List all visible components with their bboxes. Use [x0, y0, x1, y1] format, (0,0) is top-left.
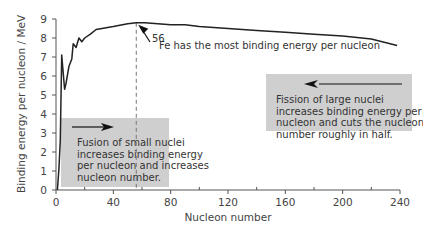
x-axis-title: Nucleon number: [184, 211, 272, 223]
y-tick-label: 5: [40, 89, 47, 101]
fission-text-line: number roughly in half.: [276, 129, 393, 140]
fission-text-line: increases binding energy per: [276, 106, 423, 117]
x-tick-label: 0: [53, 196, 60, 208]
y-tick-label: 4: [40, 108, 47, 120]
y-tick-label: 3: [40, 127, 47, 139]
binding-energy-chart: Fusion of small nucleiincreases binding …: [0, 0, 423, 230]
y-tick-label: 7: [40, 51, 47, 63]
x-tick-label: 160: [275, 196, 295, 208]
fusion-text-line: per nucleon and increases: [77, 160, 209, 171]
fusion-text-line: increases binding energy: [77, 149, 203, 160]
fe-annotation-text: Fe has the most binding energy per nucle…: [159, 40, 380, 51]
y-tick-label: 8: [40, 32, 47, 44]
fe-arrow-icon: [138, 25, 148, 34]
y-tick-label: 2: [40, 146, 47, 158]
fission-text-line: nucleon and cuts the nucleon: [276, 117, 423, 128]
x-tick-label: 200: [333, 196, 353, 208]
x-tick-label: 240: [390, 196, 410, 208]
x-tick-label: 40: [107, 196, 120, 208]
y-tick-label: 6: [40, 70, 47, 82]
y-tick-label: 9: [40, 13, 47, 25]
fusion-text-line: nucleon number.: [77, 172, 161, 183]
fission-text-line: Fission of large nuclei: [276, 94, 384, 105]
x-tick-label: 120: [218, 196, 238, 208]
y-tick-label: 1: [40, 165, 47, 177]
fusion-text-line: Fusion of small nuclei: [77, 137, 185, 148]
y-tick-label: 0: [40, 184, 47, 196]
x-tick-label: 80: [164, 196, 177, 208]
y-axis-title: Binding energy per nucleon / MeV: [15, 14, 27, 193]
